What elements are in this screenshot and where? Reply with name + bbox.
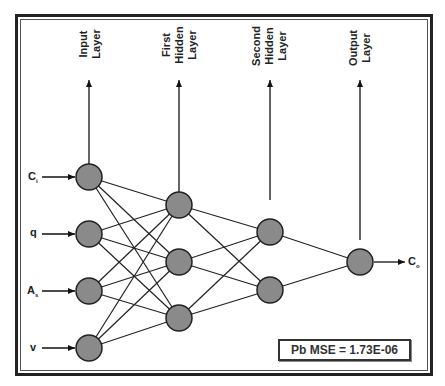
input-label-as: As <box>27 284 38 298</box>
nodes <box>76 164 373 361</box>
network-diagram <box>0 0 445 386</box>
output-layer-label: Output Layer <box>347 26 373 70</box>
input-label-v: v <box>30 341 36 353</box>
input-label-ci: Ci <box>28 170 38 184</box>
second-hidden-layer-label: Second Hidden Layer <box>250 20 289 72</box>
connections <box>89 177 360 348</box>
first-hidden-layer-label: First Hidden Layer <box>160 20 199 70</box>
output-label-co: Co <box>408 255 420 269</box>
input-layer-label: Input Layer <box>77 24 103 64</box>
mse-metric-box: Pb MSE = 1.73E-06 <box>278 339 411 361</box>
input-label-q: q <box>30 226 37 238</box>
